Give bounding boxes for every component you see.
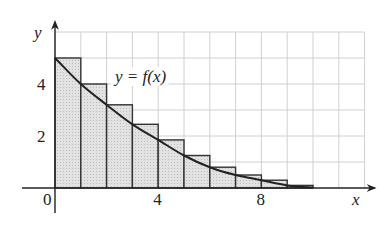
y-tick-label: 4 (37, 75, 46, 94)
curve-label: y = f(x) (113, 67, 166, 86)
bar (132, 124, 158, 188)
bar (107, 105, 133, 188)
bar (184, 156, 210, 189)
y-tick-label: 2 (37, 127, 46, 146)
x-tick-label: 8 (256, 190, 265, 209)
bar (210, 167, 236, 188)
x-tick-label: 4 (153, 190, 162, 209)
bar (55, 58, 81, 188)
x-axis-label: x (351, 190, 360, 209)
riemann-sum-chart: y x 0 y = f(x) 4824 (0, 0, 379, 231)
bar (81, 84, 107, 188)
y-axis-label: y (32, 23, 42, 42)
origin-label: 0 (43, 190, 52, 209)
